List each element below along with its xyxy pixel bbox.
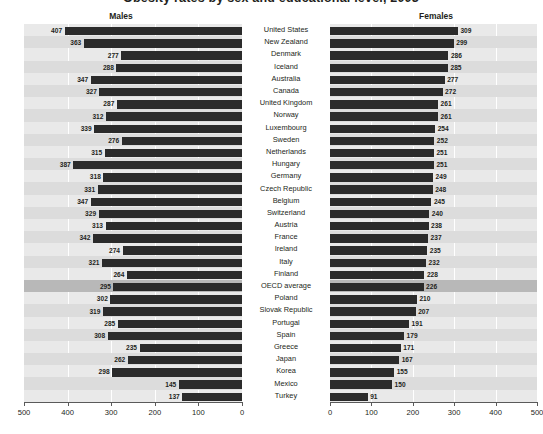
bar-value: 315 <box>91 148 102 157</box>
axis-tick-label-500: 500 <box>531 408 543 417</box>
bar-row: 407 <box>24 24 242 36</box>
bar-value: 155 <box>397 367 408 376</box>
bar-row: 315 <box>24 146 242 158</box>
bar-row: 261 <box>330 109 537 121</box>
bar-value: 254 <box>438 124 449 133</box>
country-label-canada: Canada <box>242 85 330 97</box>
bar-value: 226 <box>426 282 437 291</box>
bar-row: 312 <box>24 109 242 121</box>
bar-value: 261 <box>441 112 452 121</box>
country-label-portugal: Portugal <box>242 317 330 329</box>
bar-belgium <box>330 198 431 206</box>
bar-row: 363 <box>24 36 242 48</box>
bar-row: 287 <box>24 97 242 109</box>
bar-finland <box>127 271 242 279</box>
bar-value: 252 <box>437 136 448 145</box>
bar-mexico <box>179 380 242 388</box>
bar-row: 288 <box>24 61 242 73</box>
bar-portugal <box>330 320 409 328</box>
bar-row: 272 <box>330 85 537 97</box>
bar-row: 387 <box>24 158 242 170</box>
bar-switzerland <box>99 210 242 218</box>
bar-value: 248 <box>435 185 446 194</box>
bar-belgium <box>91 198 242 206</box>
bar-value: 179 <box>407 331 418 340</box>
bar-value: 232 <box>429 258 440 267</box>
males-axis-line <box>24 402 242 403</box>
bar-value: 329 <box>85 209 96 218</box>
axis-tick <box>24 402 25 406</box>
country-label-czech-republic: Czech Republic <box>242 182 330 194</box>
bar-value: 298 <box>99 367 110 376</box>
bar-value: 228 <box>427 270 438 279</box>
bar-spain <box>330 332 404 340</box>
axis-tick <box>371 402 372 406</box>
bar-row: 228 <box>330 268 537 280</box>
country-label-greece: Greece <box>242 341 330 353</box>
bar-germany <box>330 173 433 181</box>
bar-sweden <box>330 137 434 145</box>
bar-value: 191 <box>412 319 423 328</box>
bar-value: 407 <box>51 26 62 35</box>
bar-slovak-republic <box>330 307 416 315</box>
bar-portugal <box>118 320 242 328</box>
bar-row: 155 <box>330 365 537 377</box>
bar-value: 207 <box>418 307 429 316</box>
country-label-france: France <box>242 231 330 243</box>
bar-value: 249 <box>436 172 447 181</box>
bar-iceland <box>330 64 448 72</box>
bar-row: 298 <box>24 365 242 377</box>
bar-value: 363 <box>70 38 81 47</box>
panel-heading-females: Females <box>330 11 542 21</box>
bar-value: 262 <box>114 355 125 364</box>
bar-norway <box>330 112 438 120</box>
country-label-korea: Korea <box>242 365 330 377</box>
bar-value: 299 <box>456 38 467 47</box>
bar-value: 347 <box>77 197 88 206</box>
bar-row: 329 <box>24 207 242 219</box>
bar-row: 277 <box>330 73 537 85</box>
bar-row: 261 <box>330 97 537 109</box>
bar-value: 276 <box>108 136 119 145</box>
axis-tick <box>537 402 538 406</box>
axis-tick-label-0: 0 <box>328 408 332 417</box>
bar-row: 347 <box>24 195 242 207</box>
bar-row: 308 <box>24 329 242 341</box>
axis-tick <box>111 402 112 406</box>
bar-row: 145 <box>24 377 242 389</box>
bar-row: 235 <box>24 341 242 353</box>
bar-row: 252 <box>330 134 537 146</box>
country-label-iceland: Iceland <box>242 61 330 73</box>
bar-value: 286 <box>451 51 462 60</box>
bar-slovak-republic <box>103 307 242 315</box>
axis-tick-label-300: 300 <box>105 408 118 417</box>
country-label-finland: Finland <box>242 268 330 280</box>
bar-value: 347 <box>77 75 88 84</box>
country-label-belgium: Belgium <box>242 195 330 207</box>
bar-korea <box>330 368 394 376</box>
bar-row: 276 <box>24 134 242 146</box>
bar-iceland <box>116 64 242 72</box>
axis-tick <box>155 402 156 406</box>
country-label-italy: Italy <box>242 256 330 268</box>
bar-row: 210 <box>330 292 537 304</box>
bar-turkey <box>330 393 368 401</box>
bar-row: 319 <box>24 304 242 316</box>
axis-tick <box>454 402 455 406</box>
bar-value: 235 <box>430 246 441 255</box>
bar-value: 240 <box>432 209 443 218</box>
males-bar-rows: 4073632772883473272873123392763153873183… <box>24 24 242 402</box>
bar-australia <box>330 76 445 84</box>
bar-row: 150 <box>330 377 537 389</box>
axis-tick-label-400: 400 <box>489 408 502 417</box>
bar-italy <box>330 259 426 267</box>
bar-value: 308 <box>94 331 105 340</box>
bar-row: 179 <box>330 329 537 341</box>
bar-row: 240 <box>330 207 537 219</box>
bar-oecd-average <box>330 283 424 291</box>
bar-row: 167 <box>330 353 537 365</box>
bar-finland <box>330 271 424 279</box>
bar-row: 191 <box>330 317 537 329</box>
country-label-new-zealand: New Zealand <box>242 36 330 48</box>
